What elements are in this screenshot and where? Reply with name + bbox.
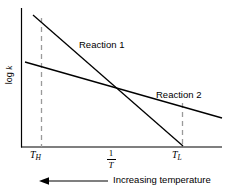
increasing-temperature-label: Increasing temperature [113,175,211,185]
y-axis-label-italic: k [4,66,14,70]
y-axis-label: log k [2,53,16,97]
y-axis-label-rm: log [4,70,14,85]
series-label-reaction-1: Reaction 1 [79,40,124,50]
series-label-reaction-2: Reaction 2 [156,90,201,100]
increasing-temperature-arrow-icon [39,177,108,185]
series-line-reaction-1 [33,15,183,146]
x-axis-label: 1 T [100,149,122,170]
th-subscript: H [36,153,41,162]
x-tick-label-th: TH [30,150,41,162]
tl-subscript: L [178,153,182,162]
x-axis-label-denominator: T [100,161,122,170]
x-tick-label-tl: TL [172,150,182,162]
x-axis-label-numerator: 1 [100,149,122,158]
arrhenius-chart-figure: log k Reaction 1 Reaction 2 TH TL 1 T In… [0,0,227,194]
